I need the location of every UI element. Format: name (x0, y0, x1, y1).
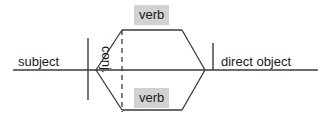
verb-label-top-text: verb (134, 5, 169, 25)
subject-label: subject (18, 55, 59, 68)
sentence-diagram: subject verb verb conj. direct object (0, 0, 325, 123)
conjunction-label: conj. (100, 46, 113, 73)
direct-object-label: direct object (221, 55, 291, 68)
hexagon-lower-right-edge (182, 70, 205, 110)
hexagon-lower-left-edge (96, 70, 122, 110)
hexagon-upper-right-edge (182, 30, 205, 70)
verb-label-bottom: verb (134, 91, 169, 104)
verb-label-top: verb (134, 8, 169, 21)
verb-label-bottom-text: verb (134, 88, 169, 108)
